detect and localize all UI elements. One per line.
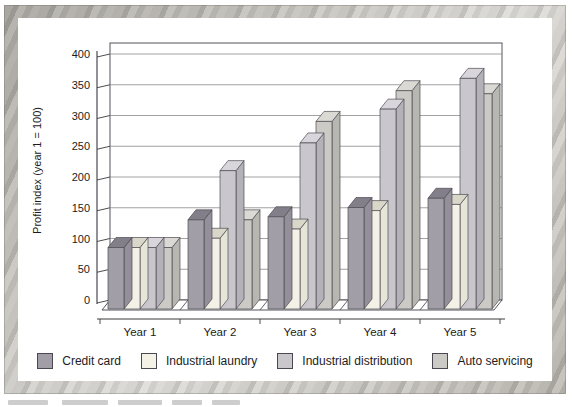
svg-text:50: 50 bbox=[78, 263, 90, 275]
svg-text:Year 4: Year 4 bbox=[364, 326, 397, 338]
auto-servicing-swatch bbox=[432, 353, 448, 369]
credit-card-swatch bbox=[37, 353, 53, 369]
legend-label: Credit card bbox=[62, 354, 121, 368]
legend-item-credit-card: Credit card bbox=[37, 353, 121, 369]
marble-frame-border: 050100150200250300350400Year 1Year 2Year… bbox=[4, 5, 566, 394]
profit-index-3d-bar-chart: 050100150200250300350400Year 1Year 2Year… bbox=[18, 18, 552, 342]
legend-label: Industrial laundry bbox=[166, 354, 257, 368]
cropped-caption-text bbox=[6, 400, 306, 407]
legend-item-auto-servicing: Auto servicing bbox=[432, 353, 532, 369]
svg-text:0: 0 bbox=[84, 294, 90, 306]
svg-text:300: 300 bbox=[72, 110, 90, 122]
svg-text:400: 400 bbox=[72, 48, 90, 60]
legend-item-industrial-laundry: Industrial laundry bbox=[141, 353, 257, 369]
chart-legend: Credit card Industrial laundry Industria… bbox=[18, 349, 552, 373]
legend-label: Industrial distribution bbox=[302, 354, 412, 368]
industrial-laundry-swatch bbox=[141, 353, 157, 369]
svg-text:350: 350 bbox=[72, 79, 90, 91]
svg-text:Year 1: Year 1 bbox=[124, 326, 157, 338]
svg-text:150: 150 bbox=[72, 202, 90, 214]
chart-panel: 050100150200250300350400Year 1Year 2Year… bbox=[18, 18, 552, 381]
svg-text:250: 250 bbox=[72, 140, 90, 152]
legend-label: Auto servicing bbox=[457, 354, 532, 368]
svg-text:Year 3: Year 3 bbox=[284, 326, 317, 338]
svg-text:100: 100 bbox=[72, 233, 90, 245]
legend-item-industrial-distribution: Industrial distribution bbox=[277, 353, 412, 369]
scanned-figure-page: { "colors": { "panel_bg": "#ffffff", "wa… bbox=[0, 0, 572, 407]
svg-text:Year 2: Year 2 bbox=[204, 326, 237, 338]
industrial-distribution-swatch bbox=[277, 353, 293, 369]
y-axis-title: Profit index (year 1 = 100) bbox=[31, 59, 46, 283]
svg-text:200: 200 bbox=[72, 171, 90, 183]
svg-text:Year 5: Year 5 bbox=[444, 326, 477, 338]
